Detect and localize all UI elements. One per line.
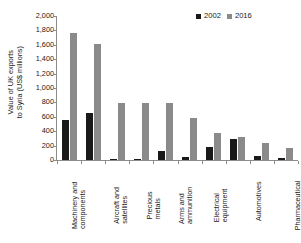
- x-axis-category-label-text: Arms andammunition: [178, 187, 195, 224]
- bar-groups: [57, 16, 298, 160]
- legend-label: 2016: [235, 12, 252, 20]
- bar-2002: [110, 159, 117, 160]
- bar-2016: [238, 137, 245, 160]
- bar-group: [202, 16, 226, 160]
- bar-2016: [70, 33, 77, 160]
- bar-2016: [214, 133, 221, 160]
- bar-2002: [182, 157, 189, 160]
- legend-label: 2002: [204, 12, 221, 20]
- x-axis-category-label-text: Aircraft andsatellites: [113, 187, 130, 224]
- x-axis-category-label: Automotives: [239, 163, 279, 243]
- x-axis-category-label-line: Automotives: [254, 181, 262, 221]
- x-axis-category-label: Electricalequipment: [205, 163, 239, 243]
- x-axis-category-label: Arms andammunition: [168, 163, 205, 243]
- x-axis-category-label-line: metals: [154, 191, 162, 219]
- bar-group: [274, 16, 298, 160]
- x-axis-category-label: Preciousmetals: [140, 163, 168, 243]
- bar-2002: [206, 147, 213, 160]
- bar-group: [129, 16, 153, 160]
- bar-group: [81, 16, 105, 160]
- plot-area: [56, 16, 298, 161]
- x-axis-category-label: Aircraft andsatellites: [103, 163, 140, 243]
- bar-group: [105, 16, 129, 160]
- bar-2002: [62, 120, 69, 160]
- chart-legend: 20022016: [196, 12, 252, 20]
- bar-2002: [278, 158, 285, 160]
- x-axis-category-label-line: ammunition: [186, 187, 194, 224]
- x-axis-category-labels: Machinery andcomponentsAircraft andsatel…: [56, 163, 297, 243]
- bar-2002: [86, 113, 93, 160]
- y-axis-title-line-2: to Syria (US$ millions): [15, 46, 24, 118]
- legend-swatch-icon: [196, 14, 201, 19]
- bar-2002: [230, 139, 237, 160]
- x-axis-category-label-text: Preciousmetals: [146, 191, 163, 219]
- y-axis-tick-label: 1,000: [36, 84, 54, 92]
- y-axis-title: Value of UK exports to Syria (US$ millio…: [0, 0, 30, 165]
- legend-item[interactable]: 2002: [196, 12, 221, 20]
- y-axis-tick-label: 400: [42, 127, 54, 135]
- x-axis-category-label-line: components: [80, 182, 88, 229]
- bar-group: [226, 16, 250, 160]
- y-axis-tick-labels: 02004006008001,0001,2001,4001,6001,8002,…: [28, 10, 54, 162]
- bar-2016: [118, 103, 125, 160]
- x-axis-category-label: Pharmaceuticalproducts: [278, 163, 301, 243]
- y-axis-tick-label: 1,600: [36, 41, 54, 49]
- y-axis-tick-label: 800: [42, 98, 54, 106]
- bar-2016: [166, 103, 173, 160]
- x-axis-category-label-line: equipment: [222, 189, 230, 223]
- bar-2002: [254, 156, 261, 160]
- bar-group: [57, 16, 81, 160]
- x-axis-category-label-text: Electricalequipment: [213, 189, 230, 223]
- x-axis-category-label-text: Pharmaceuticalproducts: [295, 181, 301, 231]
- bar-group: [177, 16, 201, 160]
- bar-2016: [262, 143, 269, 160]
- y-axis-tick-label: 1,800: [36, 26, 54, 34]
- legend-item[interactable]: 2016: [227, 12, 252, 20]
- x-axis-category-label-line: satellites: [122, 187, 130, 224]
- bar-2002: [158, 151, 165, 160]
- bar-2016: [142, 103, 149, 160]
- bar-chart: Value of UK exports to Syria (US$ millio…: [0, 0, 301, 243]
- x-axis-category-label-text: Machinery andcomponents: [71, 182, 88, 229]
- y-axis-tick-label: 2,000: [36, 12, 54, 20]
- x-axis-category-label-text: Automotives: [254, 181, 262, 221]
- legend-swatch-icon: [227, 14, 232, 19]
- y-axis-tick-label: 200: [42, 142, 54, 150]
- bar-2016: [94, 44, 101, 160]
- y-axis-tick-label: 600: [42, 113, 54, 121]
- bar-group: [153, 16, 177, 160]
- x-axis-category-label: Machinery andcomponents: [56, 163, 103, 243]
- y-axis-tick-label: 1,400: [36, 55, 54, 63]
- y-axis-tick-label: 1,200: [36, 70, 54, 78]
- y-axis-title-line-1: Value of UK exports: [6, 46, 15, 118]
- bar-2002: [134, 159, 141, 160]
- bar-2016: [286, 148, 293, 160]
- x-axis-category-label-line: Pharmaceutical: [295, 181, 301, 231]
- bar-group: [250, 16, 274, 160]
- bar-2016: [190, 118, 197, 160]
